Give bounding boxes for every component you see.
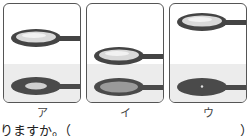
loupe-diagram-u [170, 4, 247, 103]
panel-u-label: ウ [169, 104, 247, 120]
answer-paren-close: ） [240, 120, 248, 136]
panel-i [86, 3, 164, 103]
loupe-diagram-a [4, 4, 81, 103]
loupe-diagram-i [87, 4, 164, 103]
question-text: りますか。（ [0, 120, 72, 136]
panel-u [169, 3, 247, 103]
panel-i-label: イ [86, 104, 164, 120]
panel-a-label: ア [3, 104, 81, 120]
panel-a [3, 3, 81, 103]
